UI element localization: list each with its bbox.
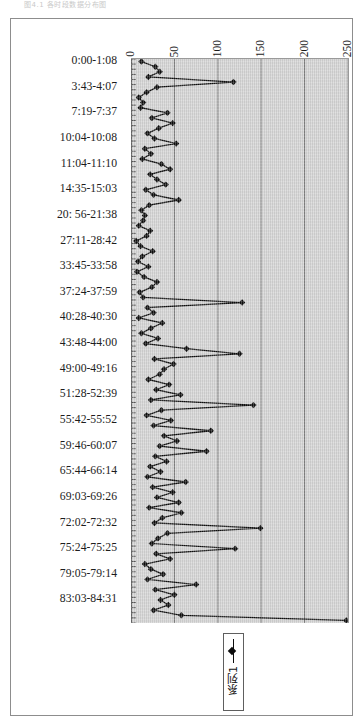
- plot-series-svg: [131, 59, 348, 623]
- category-axis-label: 59:46-60:07: [60, 439, 117, 452]
- category-axis-label: 79:05-79:14: [60, 567, 117, 580]
- plot-area: [131, 58, 349, 623]
- value-axis: 050100150200250: [11, 19, 352, 58]
- category-axis-label: 37:24-37:59: [60, 285, 117, 298]
- legend-series-label: 系列1: [228, 666, 239, 695]
- value-axis-tick-250: 250: [328, 19, 363, 57]
- category-axis-label: 43:48-44:00: [60, 336, 117, 349]
- page-header-caption: 图4.1 各时段数据分布图: [24, 0, 107, 9]
- legend-marker-icon: [224, 638, 244, 664]
- chart-frame: 050100150200250 0:00-1:083:43-4:077:19-7…: [10, 18, 353, 716]
- category-axis-label: 75:24-75:25: [60, 541, 117, 554]
- category-axis-label: 83:03-84:31: [60, 592, 117, 605]
- category-axis-label: 20: 56-21:38: [57, 208, 117, 221]
- value-axis-tick-50: 50: [154, 19, 194, 57]
- value-axis-tick-0: 0: [111, 19, 151, 57]
- value-axis-tick-100: 100: [198, 19, 238, 57]
- category-axis-label: 0:00-1:08: [72, 54, 117, 67]
- category-axis-label: 55:42-55:52: [60, 413, 117, 426]
- value-axis-tick-150: 150: [241, 19, 281, 57]
- category-axis-label: 10:04-10:08: [60, 131, 117, 144]
- category-axis-label: 40:28-40:30: [60, 310, 117, 323]
- category-axis-label: 65:44-66:14: [60, 464, 117, 477]
- category-axis-label: 3:43-4:07: [72, 80, 117, 93]
- category-axis: 0:00-1:083:43-4:077:19-7:3710:04-10:0811…: [11, 58, 121, 622]
- category-axis-label: 72:02-72:32: [60, 516, 117, 529]
- value-axis-tick-200: 200: [285, 19, 325, 57]
- category-axis-label: 14:35-15:03: [60, 182, 117, 195]
- category-axis-label: 51:28-52:39: [60, 387, 117, 400]
- category-axis-label: 69:03-69:26: [60, 490, 117, 503]
- category-axis-label: 11:04-11:10: [61, 157, 117, 170]
- category-axis-label: 27:11-28:42: [60, 234, 117, 247]
- category-axis-label: 49:00-49:16: [60, 362, 117, 375]
- data-point-markers: [133, 59, 348, 623]
- category-axis-label: 33:45-33:58: [60, 259, 117, 272]
- chart-legend[interactable]: 系列1: [223, 633, 244, 711]
- category-axis-label: 7:19-7:37: [72, 105, 117, 118]
